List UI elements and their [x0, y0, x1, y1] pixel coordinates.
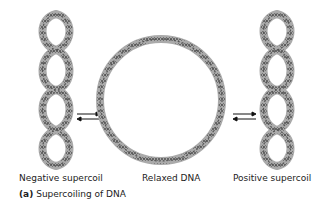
positive-supercoil-graphic [264, 14, 291, 166]
positive-supercoil-label: Positive supercoil [233, 173, 311, 183]
relaxed-dna-graphic [100, 39, 222, 161]
figure-caption: (a) Supercoiling of DNA [19, 189, 126, 199]
negative-supercoil-label: Negative supercoil [19, 173, 103, 183]
negative-supercoil-graphic [43, 14, 70, 166]
equilibrium-arrows-left [77, 112, 100, 121]
caption-tag: (a) [19, 189, 33, 199]
equilibrium-arrows-right [233, 112, 256, 121]
relaxed-dna-label: Relaxed DNA [142, 173, 200, 183]
caption-text: Supercoiling of DNA [33, 189, 126, 199]
